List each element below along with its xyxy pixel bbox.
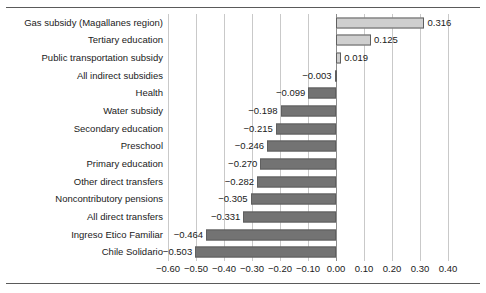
x-tick-label: 0.30 [411,264,430,274]
bar-row: 0.316 [168,14,448,32]
bar-row: −0.464 [168,226,448,244]
x-tick-label: 0.40 [439,264,458,274]
bar-positive [336,17,424,28]
bottom-rule [6,283,480,284]
bar-negative [206,229,336,240]
chart-figure: Gas subsidy (Magallanes region)Tertiary … [0,0,486,293]
bar-row: −0.099 [168,85,448,103]
bar-row: −0.270 [168,155,448,173]
category-label-row: Secondary education [0,120,163,138]
x-tick-label: −0.20 [268,264,292,274]
bar-row: −0.331 [168,208,448,226]
bar-value-label: −0.282 [225,177,254,187]
bar-negative [281,106,336,117]
bar-value-label: −0.331 [211,212,240,222]
category-label: All direct transfers [87,212,163,222]
category-label: Gas subsidy (Magallanes region) [24,18,163,28]
bar-row: 0.019 [168,49,448,67]
category-label: Public transportation subsidy [42,53,163,63]
x-tick-label: −0.60 [156,264,180,274]
bar-negative [335,70,337,81]
bar-negative [267,141,336,152]
bar-negative [243,211,336,222]
category-label: Ingreso Etico Familiar [71,230,163,240]
category-label: Noncontributory pensions [55,194,163,204]
category-label: Water subsidy [103,106,163,116]
category-label: Tertiary education [88,36,163,46]
category-label: Other direct transfers [74,177,163,187]
bar-value-label: −0.464 [174,230,203,240]
category-label: Secondary education [74,124,163,134]
bar-positive [336,53,341,64]
bar-row: 0.125 [168,32,448,50]
category-label-row: Health [0,85,163,103]
category-label-row: Ingreso Etico Familiar [0,226,163,244]
bar-row: −0.305 [168,190,448,208]
bar-value-label: 0.019 [344,53,368,63]
category-axis-labels: Gas subsidy (Magallanes region)Tertiary … [0,14,163,261]
category-label-row: Noncontributory pensions [0,190,163,208]
x-tick-label: −0.10 [296,264,320,274]
bar-row: −0.503 [168,243,448,261]
bar-value-label: −0.099 [276,89,305,99]
category-label-row: All direct transfers [0,208,163,226]
category-label-row: All indirect subsidies [0,67,163,85]
bar-negative [195,247,336,258]
bar-value-label: −0.270 [228,159,257,169]
category-label: Preschool [121,142,163,152]
bar-value-label: −0.003 [302,71,331,81]
bar-value-label: 0.316 [427,18,451,28]
bar-negative [251,194,336,205]
bar-positive [336,35,371,46]
category-label-row: Chile Solidario [0,243,163,261]
bar-row: −0.282 [168,173,448,191]
category-label-row: Preschool [0,137,163,155]
bar-value-label: −0.503 [163,247,192,257]
x-tick-label: 0.00 [327,264,346,274]
plot-area: 0.3160.1250.019−0.003−0.099−0.198−0.215−… [168,14,448,261]
bar-row: −0.198 [168,102,448,120]
gridline [448,14,449,261]
x-tick-label: −0.50 [184,264,208,274]
bar-negative [308,88,336,99]
x-axis-tick-labels: −0.60−0.50−0.40−0.30−0.20−0.100.000.100.… [168,264,448,278]
bar-rows: 0.3160.1250.019−0.003−0.099−0.198−0.215−… [168,14,448,261]
category-label: Primary education [86,159,163,169]
x-tick-label: 0.10 [355,264,374,274]
x-tick-label: −0.40 [212,264,236,274]
bar-value-label: −0.215 [243,124,272,134]
x-tick-label: 0.20 [383,264,402,274]
top-rule [6,7,480,8]
bar-row: −0.246 [168,137,448,155]
category-label-row: Public transportation subsidy [0,49,163,67]
category-label-row: Other direct transfers [0,173,163,191]
x-tick-label: −0.30 [240,264,264,274]
bar-negative [257,176,336,187]
category-label: Health [136,89,163,99]
bar-negative [276,123,336,134]
bar-value-label: −0.246 [235,142,264,152]
bar-negative [260,158,336,169]
bar-value-label: −0.305 [218,194,247,204]
category-label-row: Primary education [0,155,163,173]
bar-row: −0.003 [168,67,448,85]
category-label: Chile Solidario [102,247,163,257]
category-label-row: Water subsidy [0,102,163,120]
bar-value-label: 0.125 [374,36,398,46]
bar-row: −0.215 [168,120,448,138]
bar-value-label: −0.198 [248,106,277,116]
category-label-row: Tertiary education [0,32,163,50]
category-label: All indirect subsidies [77,71,163,81]
category-label-row: Gas subsidy (Magallanes region) [0,14,163,32]
